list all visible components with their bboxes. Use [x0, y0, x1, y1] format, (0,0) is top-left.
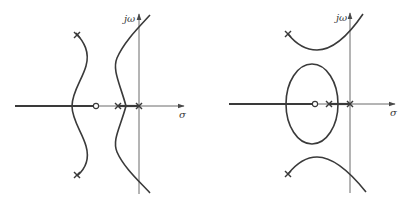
- right-locus-branch-bottom: [288, 157, 366, 192]
- left-real-axis-label: σ: [179, 109, 187, 120]
- right-imag-axis-label: jω: [334, 12, 347, 23]
- left-zero-marker: [93, 103, 98, 108]
- root-locus-figure: jω σ jω σ: [0, 0, 408, 205]
- right-root-locus: jω σ: [229, 12, 398, 193]
- left-root-locus: jω σ: [15, 13, 187, 194]
- right-zero-marker: [312, 101, 317, 106]
- left-imag-axis-label: jω: [122, 13, 135, 24]
- left-locus-branch-left: [72, 33, 87, 176]
- right-real-axis-label: σ: [390, 107, 398, 118]
- right-pole-marker: [285, 171, 291, 177]
- left-pole-marker: [74, 32, 80, 38]
- right-locus-branch-top: [288, 14, 363, 50]
- right-pole-marker: [285, 31, 291, 37]
